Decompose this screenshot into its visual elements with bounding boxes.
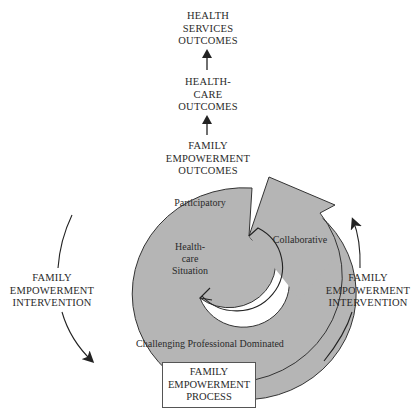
stage-participatory-label: Participatory	[150, 197, 250, 209]
family-empowerment-process-box: FAMILY EMPOWERMENT PROCESS	[162, 362, 256, 408]
right-intervention-arc-top	[353, 220, 360, 268]
family-empowerment-process-label: FAMILY EMPOWERMENT PROCESS	[168, 366, 250, 404]
outcome-arrow-lower	[202, 115, 212, 135]
left-intervention-arc-bottom	[62, 312, 92, 361]
left-intervention-arc-top	[58, 215, 72, 268]
stage-challenging-professional-dominated-label: Challenging Professional Dominated	[120, 338, 300, 350]
outcome-arrow-upper	[202, 49, 212, 70]
healthcare-situation-label: Health- care Situation	[160, 241, 220, 277]
family-empowerment-outcomes-label: FAMILY EMPOWERMENT OUTCOMES	[150, 140, 266, 178]
health-services-outcomes-label: HEALTH SERVICES OUTCOMES	[160, 10, 256, 48]
left-intervention-label: FAMILY EMPOWERMENT INTERVENTION	[4, 272, 100, 310]
stage-collaborative-label: Collaborative	[262, 234, 338, 246]
right-intervention-label: FAMILY EMPOWERMENT INTERVENTION	[320, 272, 416, 310]
health-care-outcomes-label: HEALTH- CARE OUTCOMES	[160, 76, 256, 114]
